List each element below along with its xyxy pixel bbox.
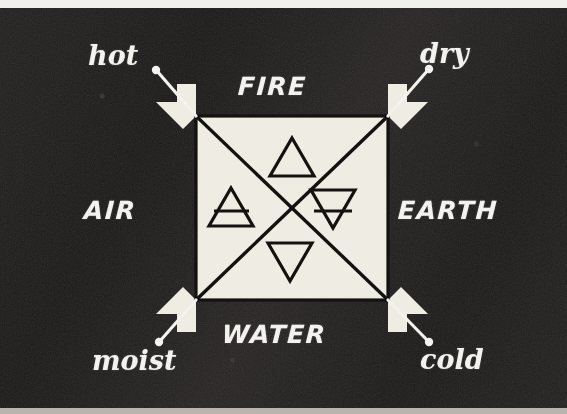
quality-label-hot: hot — [88, 40, 138, 71]
quality-label-moist: moist — [92, 345, 177, 376]
figure-canvas: FIRE AIR EARTH WATER hot dry moist cold — [0, 0, 567, 414]
element-label-fire: FIRE — [237, 72, 307, 101]
leader-dot-hot — [152, 66, 160, 74]
element-label-water: WATER — [221, 320, 327, 349]
element-label-earth: EARTH — [397, 196, 499, 225]
quality-label-dry: dry — [420, 38, 469, 69]
arrow-down-right — [388, 287, 428, 332]
quality-label-cold: cold — [420, 344, 484, 375]
element-label-air: AIR — [83, 196, 137, 225]
arrow-down-left — [156, 287, 196, 332]
